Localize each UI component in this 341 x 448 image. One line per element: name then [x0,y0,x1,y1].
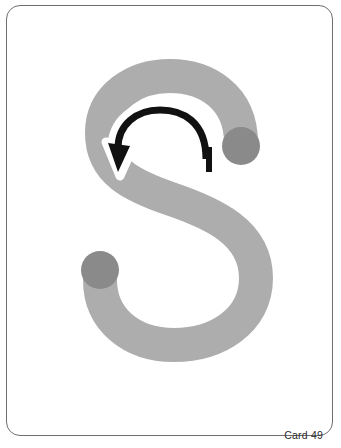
start-dot [222,127,260,165]
card-number-label: Card 49 [284,430,323,441]
tracing-card: Card 49 [0,0,341,448]
letter-tracing-area [0,0,341,448]
end-dot [81,251,119,289]
letter-s-graphic [0,0,341,448]
